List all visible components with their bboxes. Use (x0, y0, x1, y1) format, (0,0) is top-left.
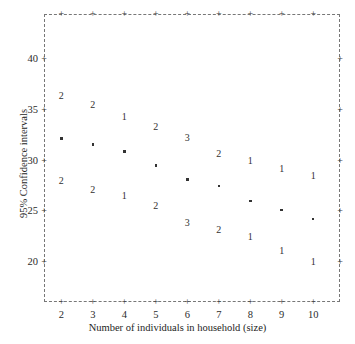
ci-upper-bound-label: 1 (306, 171, 320, 181)
ci-upper-bound-label: 2 (54, 91, 68, 101)
mean-estimate-marker (186, 178, 189, 181)
ci-lower-bound-label: 1 (275, 246, 289, 256)
ci-lower-bound-label: 3 (180, 218, 194, 228)
mean-estimate-marker (155, 164, 158, 167)
chart-figure: ++++++++++++++++++ +++++ +++++ 202530354… (0, 0, 355, 344)
mean-estimate-marker (312, 218, 315, 221)
mean-estimate-marker (123, 150, 126, 153)
ci-upper-bound-label: 3 (180, 133, 194, 143)
ci-lower-bound-label: 2 (212, 225, 226, 235)
mean-estimate-marker (218, 185, 221, 188)
data-point-layer: 222211223322111111 (0, 0, 355, 344)
mean-estimate-marker (280, 209, 283, 212)
y-axis-title: 95% Confidence intervals (18, 79, 29, 249)
ci-lower-bound-label: 2 (149, 201, 163, 211)
ci-lower-bound-label: 1 (306, 257, 320, 267)
ci-upper-bound-label: 2 (212, 149, 226, 159)
ci-lower-bound-label: 1 (117, 191, 131, 201)
ci-lower-bound-label: 2 (86, 185, 100, 195)
x-axis-title: Number of individuals in household (size… (0, 322, 355, 333)
mean-estimate-marker (92, 143, 95, 146)
ci-lower-bound-label: 2 (54, 176, 68, 186)
mean-estimate-marker (249, 200, 252, 203)
ci-upper-bound-label: 2 (149, 122, 163, 132)
ci-upper-bound-label: 1 (275, 164, 289, 174)
mean-estimate-marker (60, 137, 63, 140)
ci-upper-bound-label: 2 (86, 100, 100, 110)
ci-upper-bound-label: 1 (243, 156, 257, 166)
ci-lower-bound-label: 1 (243, 232, 257, 242)
ci-upper-bound-label: 1 (117, 112, 131, 122)
